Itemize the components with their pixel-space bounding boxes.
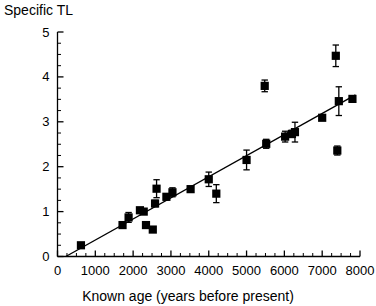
- data-point-marker: [333, 146, 341, 154]
- data-point-marker: [149, 225, 157, 233]
- data-point-marker: [168, 188, 176, 196]
- y-axis-tick-label: 0: [42, 249, 49, 264]
- data-point-marker: [151, 199, 159, 207]
- data-point-marker: [291, 128, 299, 136]
- x-axis-tick-label: 1000: [81, 263, 110, 278]
- x-axis-label: Known age (years before present): [0, 288, 376, 304]
- data-point-marker: [242, 156, 250, 164]
- data-point-marker: [212, 190, 220, 198]
- data-point-marker: [205, 175, 213, 183]
- chart-figure: Specific TL 0100020003000400050006000700…: [0, 0, 376, 306]
- x-axis-tick-label: 7000: [308, 263, 337, 278]
- y-axis-tick-label: 4: [42, 69, 49, 84]
- y-axis-tick-label: 3: [42, 114, 49, 129]
- x-axis-tick-label: 3000: [156, 263, 185, 278]
- data-point-marker: [348, 95, 356, 103]
- data-point-marker: [187, 185, 195, 193]
- data-point-marker: [332, 52, 340, 60]
- x-axis-tick-label: 5000: [232, 263, 261, 278]
- data-point-marker: [335, 97, 343, 105]
- data-point-marker: [140, 208, 148, 216]
- data-point-marker: [318, 114, 326, 122]
- y-axis-label: Specific TL: [4, 2, 73, 18]
- x-axis-tick-label: 4000: [194, 263, 223, 278]
- data-point-marker: [261, 82, 269, 90]
- data-point-marker: [124, 213, 132, 221]
- data-point-marker: [77, 241, 85, 249]
- x-axis-tick-label: 6000: [270, 263, 299, 278]
- y-axis-tick-label: 1: [42, 204, 49, 219]
- y-axis-tick-label: 2: [42, 159, 49, 174]
- data-point-marker: [262, 140, 270, 148]
- x-axis-tick-label: 0: [54, 263, 61, 278]
- x-axis-tick-label: 2000: [119, 263, 148, 278]
- y-axis-tick-label: 5: [42, 25, 49, 40]
- x-axis-tick-label: 8000: [346, 263, 375, 278]
- scatter-plot-canvas: 010002000300040005000600070008000012345: [0, 0, 376, 306]
- data-point-marker: [152, 185, 160, 193]
